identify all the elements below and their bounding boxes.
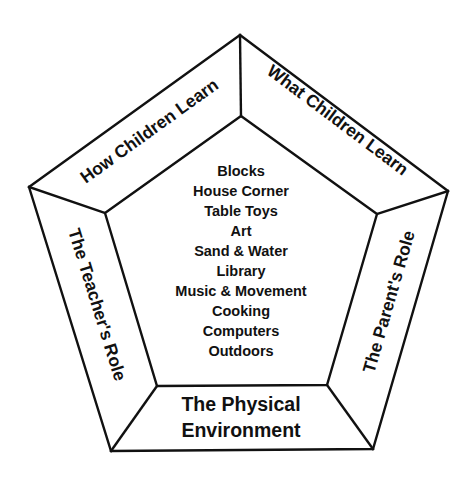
spoke-bottom-right: [327, 385, 373, 449]
band-label-physical-environment-line1: The Physical: [181, 393, 300, 415]
pentagon-diagram: How Children Learn What Children Learn T…: [0, 0, 476, 482]
band-label-how-children-learn: How Children Learn: [76, 74, 222, 187]
center-item: Table Toys: [204, 203, 278, 219]
center-item: Art: [231, 223, 252, 239]
band-label-what-children-learn: What Children Learn: [263, 61, 412, 180]
center-item: Library: [216, 263, 265, 279]
band-label-physical-environment-line2: Environment: [181, 419, 301, 441]
spoke-bottom-left: [111, 386, 157, 451]
center-item: Computers: [203, 323, 280, 339]
band-label-teachers-role: The Teacher's Role: [64, 226, 130, 384]
center-activity-list: Blocks House Corner Table Toys Art Sand …: [175, 163, 306, 359]
center-item: Music & Movement: [175, 283, 306, 299]
center-item: Cooking: [212, 303, 270, 319]
spoke-left: [29, 187, 105, 213]
center-item: Blocks: [217, 163, 265, 179]
spoke-right: [377, 191, 448, 214]
spoke-top: [240, 35, 241, 116]
center-item: Sand & Water: [194, 243, 288, 259]
center-item: House Corner: [193, 183, 289, 199]
center-item: Outdoors: [208, 343, 273, 359]
